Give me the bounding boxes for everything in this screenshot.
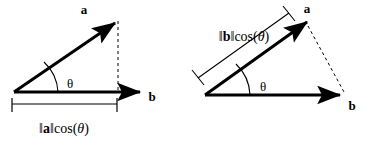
measure-bracket-tick-end-right [283, 6, 295, 21]
norm-function-right: cos( [234, 29, 258, 45]
panel-left: a b θ ‖a‖cos(θ) [12, 2, 156, 137]
vector-b-label-left: b [148, 89, 155, 104]
measure-label-right: ‖b‖cos(θ) [219, 29, 270, 45]
norm-vector-left: a [43, 121, 50, 136]
projection-drop-line-right [308, 26, 344, 92]
norm-paren-close-left: ) [84, 121, 89, 137]
norm-function-left: cos( [54, 121, 78, 137]
vector-projection-figure: a b θ ‖a‖cos(θ) a [0, 0, 365, 146]
figure-svg: a b θ ‖a‖cos(θ) a [0, 0, 365, 146]
vector-a-label-right: a [304, 1, 311, 16]
measure-bracket-tick-start-right [192, 70, 204, 85]
norm-vector-right: b [223, 29, 231, 44]
angle-theta-label-left: θ [67, 76, 73, 91]
norm-paren-close-right: ) [265, 29, 270, 45]
panel-right: a b θ ‖b‖cos(θ) [192, 1, 356, 113]
vector-b-label-right: b [348, 98, 355, 113]
measure-label-left: ‖a‖cos(θ) [39, 121, 89, 137]
angle-theta-label-right: θ [260, 79, 266, 94]
vector-a-label-left: a [81, 2, 88, 17]
vector-a-arrow-left [14, 23, 115, 92]
